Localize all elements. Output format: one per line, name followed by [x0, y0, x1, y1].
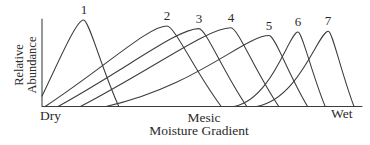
curve-number-label-4: 4 [224, 11, 238, 24]
curve-number-label-6: 6 [291, 15, 305, 28]
curve-number-label-7: 7 [321, 14, 335, 27]
species-curve-2 [45, 26, 221, 106]
species-curve-3 [58, 29, 247, 107]
curve-number-label-1: 1 [77, 3, 91, 16]
curve-number-label-2: 2 [160, 9, 174, 22]
tick-dry: Dry [40, 109, 61, 123]
curve-number-label-5: 5 [262, 19, 276, 32]
tick-wet: Wet [331, 107, 352, 121]
curve-number-label-3: 3 [192, 12, 206, 25]
x-axis-label: Moisture Gradient [129, 123, 269, 138]
y-axis-label: Relative Abundance [13, 33, 41, 97]
moisture-gradient-figure: Relative Abundance Dry Mesic Wet Moistur… [0, 0, 370, 145]
species-curve-4 [80, 28, 278, 107]
species-curve-5 [106, 36, 308, 107]
